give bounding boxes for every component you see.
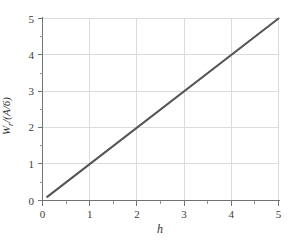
x-tick-label-1: 1 [87,209,93,220]
x-tick-label-2: 2 [134,209,140,220]
x-tick-label-4: 4 [229,209,235,220]
y-tick-label-5: 5 [24,13,34,24]
y-tick-label-1: 1 [24,158,34,169]
y-tick-label-4: 4 [24,49,34,60]
y-axis-title-base: W [0,126,12,135]
chart-figure: 0 1 2 3 4 5 0 1 2 3 4 5 h Wr/(A/6) [0,0,295,245]
x-tick-label-0: 0 [40,209,46,220]
x-tick-label-5: 5 [276,209,282,220]
y-tick-label-3: 3 [24,86,34,97]
y-axis-title: Wr/(A/6) [1,66,15,166]
y-tick-label-2: 2 [24,122,34,133]
y-tick-label-0: 0 [24,195,34,206]
x-tick-label-3: 3 [181,209,187,220]
y-axis-title-subscript: r [6,123,15,126]
y-axis-title-rest: /(A/6) [0,97,12,123]
x-axis-title: h [157,223,163,235]
